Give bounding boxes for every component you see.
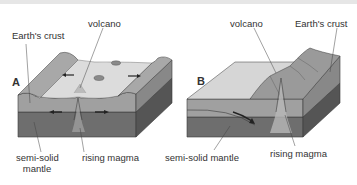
panel-b-magma-label: rising magma <box>270 148 327 159</box>
panel-a-block <box>18 28 172 152</box>
panel-a-mantle-line1: semi-solid <box>16 152 58 163</box>
panel-b-block <box>187 28 340 150</box>
panel-a-mantle-label: semi-solid mantle <box>16 152 58 174</box>
panel-a-magma-label: rising magma <box>82 152 139 163</box>
panel-a-letter: A <box>12 76 20 88</box>
panel-b-volcano-label: volcano <box>230 18 263 29</box>
panel-b-mantle-label: semi-solid mantle <box>165 152 239 163</box>
panel-b-crust-label: Earth's crust <box>295 18 348 29</box>
panel-a-volcano-label: volcano <box>88 18 121 29</box>
panel-a-mantle-line2: mantle <box>16 163 58 174</box>
panel-b-letter: B <box>197 75 205 87</box>
panel-a-crust-label: Earth's crust <box>12 30 65 41</box>
